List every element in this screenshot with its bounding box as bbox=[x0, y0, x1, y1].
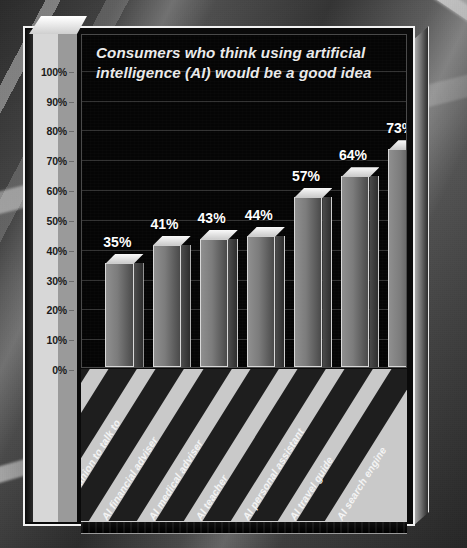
x-axis-baseline-band bbox=[81, 521, 407, 534]
bar-side-face bbox=[228, 239, 238, 367]
y-axis-tick-10: 10% bbox=[47, 334, 67, 346]
bar-front-face bbox=[388, 149, 407, 367]
y-axis-tick-100: 100% bbox=[41, 66, 67, 78]
bar-group[interactable]: 73% bbox=[388, 149, 407, 367]
masthead-cropped-text bbox=[120, 1, 350, 10]
bar-series: 35%41%43%44%57%64%73% bbox=[82, 35, 406, 367]
bar-side-face bbox=[181, 245, 191, 367]
y-axis-tick-0: 0% bbox=[52, 364, 67, 376]
y-axis-tick-labels: 100%90%80%70%60%50%40%30%20%10%0% bbox=[27, 30, 73, 522]
bar-value-label: 64% bbox=[339, 147, 367, 163]
bar-front-face bbox=[294, 197, 322, 367]
y-axis-tick-80: 80% bbox=[47, 125, 67, 137]
y-axis-tick-mark bbox=[69, 310, 74, 311]
bar-front-face bbox=[153, 245, 181, 367]
bar-group[interactable]: 41% bbox=[153, 245, 181, 367]
bar-group[interactable]: 43% bbox=[200, 239, 228, 367]
y-axis-tick-20: 20% bbox=[47, 304, 67, 316]
bar-group[interactable]: 35% bbox=[105, 263, 133, 367]
bar-value-label: 43% bbox=[198, 210, 226, 226]
y-axis-tick-mark bbox=[69, 191, 74, 192]
bar-group[interactable]: 44% bbox=[247, 236, 275, 367]
bar-group[interactable]: 57% bbox=[294, 197, 322, 367]
bar-front-face bbox=[247, 236, 275, 367]
chart-frame: 100%90%80%70%60%50%40%30%20%10%0% Consum… bbox=[23, 26, 415, 526]
y-axis-tick-mark bbox=[69, 102, 74, 103]
bar-front-face bbox=[105, 263, 133, 367]
x-axis-category-labels: AI companion to talk toAI financial advi… bbox=[81, 369, 407, 521]
bar-side-face bbox=[275, 236, 285, 367]
bar-value-label: 41% bbox=[150, 216, 178, 232]
y-axis-tick-30: 30% bbox=[47, 275, 67, 287]
y-axis-tick-50: 50% bbox=[47, 215, 67, 227]
bar-value-label: 44% bbox=[245, 207, 273, 223]
y-axis-tick-mark bbox=[69, 221, 74, 222]
y-axis-tick-40: 40% bbox=[47, 245, 67, 257]
bar-top-face bbox=[388, 140, 407, 150]
plot-area: Consumers who think using artificial int… bbox=[81, 34, 407, 368]
bar-group[interactable]: 64% bbox=[341, 176, 369, 367]
y-axis-tick-70: 70% bbox=[47, 155, 67, 167]
chart-3d-right-face bbox=[413, 26, 429, 526]
bar-chart-figure: 100%90%80%70%60%50%40%30%20%10%0% Consum… bbox=[23, 26, 428, 526]
bar-value-label: 35% bbox=[103, 234, 131, 250]
bar-side-face bbox=[322, 197, 332, 367]
bar-side-face bbox=[134, 263, 144, 367]
bar-side-face bbox=[369, 176, 379, 367]
bar-value-label: 57% bbox=[292, 168, 320, 184]
bar-value-label: 73% bbox=[386, 120, 407, 136]
y-axis-tick-mark bbox=[69, 131, 74, 132]
y-axis-tick-mark bbox=[69, 340, 74, 341]
y-axis-tick-mark bbox=[69, 161, 74, 162]
bar-front-face bbox=[200, 239, 228, 367]
y-axis-tick-mark bbox=[69, 72, 74, 73]
y-axis-tick-90: 90% bbox=[47, 96, 67, 108]
bar-front-face bbox=[341, 176, 369, 367]
y-axis-tick-60: 60% bbox=[47, 185, 67, 197]
y-axis-tick-mark bbox=[69, 281, 74, 282]
y-axis-slab: 100%90%80%70%60%50%40%30%20%10%0% bbox=[27, 30, 77, 522]
y-axis-tick-mark bbox=[69, 251, 74, 252]
y-axis-tick-mark bbox=[69, 370, 74, 371]
